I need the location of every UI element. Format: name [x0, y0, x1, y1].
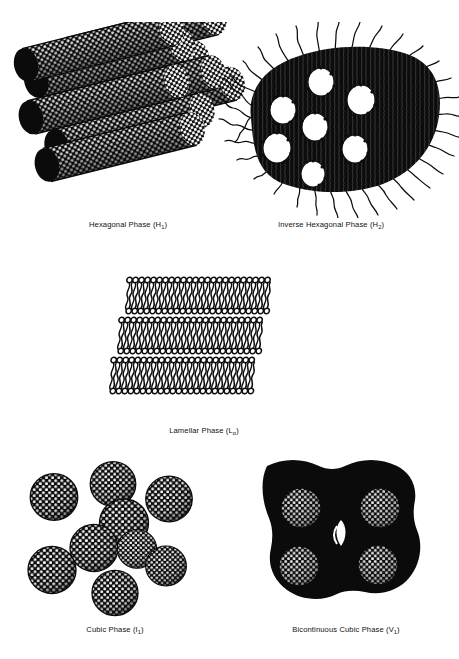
- micelle: [92, 570, 138, 615]
- micelle: [30, 474, 78, 521]
- panel-label-text: Hexagonal Phase (H: [89, 220, 161, 229]
- panel-bicontinuous-cubic-phase: Bicontinuous Cubic Phase (V1): [245, 448, 447, 648]
- panel-label-suffix: ): [164, 220, 167, 229]
- panel-label-inverse-hexagonal-phase: Inverse Hexagonal Phase (H2): [203, 220, 459, 229]
- panel-label-suffix: ): [397, 625, 400, 634]
- channel-opening: [279, 546, 319, 586]
- panel-label-text: Cubic Phase (I: [86, 625, 137, 634]
- channel-opening: [358, 545, 398, 585]
- channel-opening: [360, 488, 400, 528]
- panel-label-subscript: 1: [138, 629, 141, 635]
- oil-matrix: [203, 22, 459, 218]
- micelle-group: [28, 462, 192, 616]
- liquid-crystal-phase-figure: Hexagonal Phase (H1): [0, 0, 459, 659]
- inverse-hexagonal-phase-illustration: [203, 22, 459, 218]
- panel-label-text: Bicontinuous Cubic Phase (V: [292, 625, 394, 634]
- micelle: [28, 546, 76, 593]
- panel-label-subscript: α: [233, 430, 236, 436]
- panel-label-subscript: 1: [394, 629, 397, 635]
- panel-label-text: Lamellar Phase (L: [169, 426, 233, 435]
- panel-label-bicontinuous-cubic-phase: Bicontinuous Cubic Phase (V1): [245, 625, 447, 634]
- cubic-phase-illustration: [14, 448, 216, 620]
- bilayer-stack: [107, 277, 274, 393]
- panel-inverse-hexagonal-phase: Inverse Hexagonal Phase (H2): [203, 22, 459, 242]
- panel-lamellar-phase: Lamellar Phase (Lα): [104, 268, 304, 448]
- micelle: [70, 524, 118, 571]
- panel-label-suffix: ): [381, 220, 384, 229]
- panel-label-text: Inverse Hexagonal Phase (H: [278, 220, 378, 229]
- channel-opening: [281, 488, 321, 528]
- lamellar-phase-illustration: [104, 268, 304, 420]
- panel-label-subscript: 1: [161, 224, 164, 230]
- micelle: [146, 546, 187, 586]
- panel-label-subscript: 2: [378, 224, 381, 230]
- panel-label-cubic-phase: Cubic Phase (I1): [14, 625, 216, 634]
- panel-label-lamellar-phase: Lamellar Phase (Lα): [104, 426, 304, 435]
- panel-label-suffix: ): [236, 426, 239, 435]
- micelle: [146, 476, 193, 522]
- bilayer: [123, 277, 274, 313]
- bilayer: [115, 317, 266, 353]
- bicontinuous-cubic-phase-illustration: [245, 448, 447, 620]
- bilayer: [107, 357, 258, 393]
- panel-cubic-phase: Cubic Phase (I1): [14, 448, 216, 648]
- panel-label-suffix: ): [141, 625, 144, 634]
